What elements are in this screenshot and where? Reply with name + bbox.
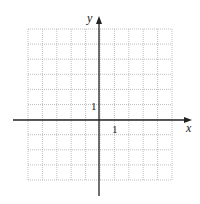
x-tick-label: 1 (112, 123, 118, 135)
coordinate-plane: x y 1 1 (0, 0, 200, 204)
y-tick-label: 1 (91, 100, 97, 112)
x-axis-label: x (185, 121, 192, 135)
y-axis-label: y (86, 11, 93, 25)
y-axis-arrow-icon (96, 16, 102, 24)
grid-lines (28, 29, 172, 180)
